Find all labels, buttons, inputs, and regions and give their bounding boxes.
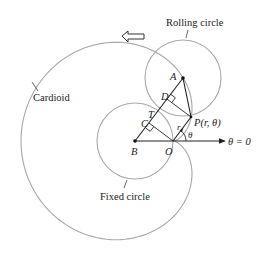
point-D-label: D: [160, 91, 169, 102]
point-P-label: P(r, θ): [193, 117, 221, 129]
point-O-label: O: [165, 146, 173, 157]
point-T-label: T: [148, 109, 155, 120]
cardioid-diagram: Rolling circle Cardioid Fixed circle A D…: [0, 0, 263, 257]
polar-axis-arrowhead-icon: [219, 138, 226, 143]
point-C-label: C: [141, 118, 149, 129]
right-angle-D-icon: [171, 94, 176, 102]
point-B-dot: [133, 139, 137, 143]
r-label: r: [177, 122, 181, 132]
theta-label: θ: [188, 130, 193, 140]
point-A-label: A: [169, 71, 177, 82]
line-BA: [135, 78, 183, 141]
direction-arrow-icon: [122, 31, 144, 42]
line-AP: [183, 78, 191, 117]
cardioid-label: Cardioid: [33, 92, 70, 103]
point-P-dot: [190, 116, 193, 119]
fixed-circle-label: Fixed circle: [100, 191, 150, 202]
rolling-circle-leader: [186, 30, 188, 38]
polar-axis-label: θ = 0: [228, 136, 251, 147]
fixed-circle-leader: [124, 180, 127, 188]
point-B-label: B: [131, 146, 138, 157]
rolling-circle-label: Rolling circle: [166, 17, 224, 28]
point-A-dot: [181, 76, 185, 80]
